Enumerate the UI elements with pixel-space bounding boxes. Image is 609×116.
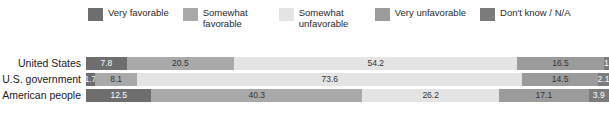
stacked-bar-chart: Very favorableSomewhat favorableSomewhat…	[0, 0, 609, 116]
bar-segment[interactable]: 54.2	[234, 57, 517, 70]
legend-swatch-icon	[88, 8, 103, 21]
bar-segment-value: 8.1	[110, 73, 122, 86]
bar-segment[interactable]: 1.7	[86, 73, 95, 86]
bar-segment-value: 2.1	[598, 73, 609, 86]
row-category-label: American people	[0, 89, 86, 102]
legend-item-label: Very unfavorable	[395, 7, 466, 18]
legend-swatch-icon	[375, 8, 390, 21]
bar-segment[interactable]: 3.9	[589, 89, 609, 102]
bar-segment[interactable]: 26.2	[362, 89, 499, 102]
bar-segment[interactable]: 14.5	[522, 73, 598, 86]
bar-segment-value: 16.5	[552, 57, 569, 70]
bar-segment[interactable]: 40.3	[151, 89, 362, 102]
bar-segment[interactable]: 73.6	[137, 73, 522, 86]
legend-item[interactable]: Very favorable	[88, 7, 169, 21]
bar-segment-value: 3.9	[593, 89, 605, 102]
legend-item-label: Very favorable	[108, 7, 169, 18]
bar-segment[interactable]: 17.1	[499, 89, 588, 102]
bar-segment[interactable]: 2.1	[598, 73, 609, 86]
chart-legend: Very favorableSomewhat favorableSomewhat…	[0, 7, 609, 41]
legend-item-label: Somewhat unfavorable	[299, 7, 361, 29]
legend-item-label: Don't know / N/A	[500, 7, 570, 18]
bar-segment-value: 14.5	[552, 73, 569, 86]
legend-item[interactable]: Somewhat favorable	[183, 7, 265, 29]
bar-segment[interactable]: 8.1	[95, 73, 137, 86]
legend-swatch-icon	[480, 8, 495, 21]
bar-segment-value: 1	[604, 57, 609, 70]
legend-swatch-icon	[279, 8, 294, 21]
chart-row: United States7.820.554.216.51	[0, 57, 609, 70]
legend-item-label: Somewhat favorable	[203, 7, 265, 29]
bar-segment-value: 20.5	[172, 57, 189, 70]
stacked-bar: 7.820.554.216.51	[86, 57, 609, 70]
row-category-label: U.S. government	[0, 73, 86, 86]
bar-segment-value: 1.7	[86, 73, 95, 86]
bar-segment[interactable]: 16.5	[517, 57, 603, 70]
bar-segment[interactable]: 12.5	[86, 89, 151, 102]
bar-segment-value: 73.6	[321, 73, 338, 86]
bar-segment-value: 12.5	[110, 89, 127, 102]
chart-row: U.S. government1.78.173.614.52.1	[0, 73, 609, 86]
legend-swatch-icon	[183, 8, 198, 21]
legend-item[interactable]: Don't know / N/A	[480, 7, 570, 21]
bar-segment-value: 26.2	[422, 89, 439, 102]
legend-item[interactable]: Somewhat unfavorable	[279, 7, 361, 29]
chart-row: American people12.540.326.217.13.9	[0, 89, 609, 102]
bar-segment[interactable]: 1	[604, 57, 609, 70]
stacked-bar: 12.540.326.217.13.9	[86, 89, 609, 102]
bar-segment-value: 40.3	[248, 89, 265, 102]
bar-segment[interactable]: 20.5	[127, 57, 234, 70]
stacked-bar: 1.78.173.614.52.1	[86, 73, 609, 86]
chart-plot-area: United States7.820.554.216.51U.S. govern…	[0, 57, 609, 105]
bar-segment-value: 7.8	[100, 57, 112, 70]
bar-segment[interactable]: 7.8	[86, 57, 127, 70]
legend-item[interactable]: Very unfavorable	[375, 7, 466, 21]
row-category-label: United States	[0, 57, 86, 70]
bar-segment-value: 17.1	[536, 89, 553, 102]
bar-segment-value: 54.2	[367, 57, 384, 70]
